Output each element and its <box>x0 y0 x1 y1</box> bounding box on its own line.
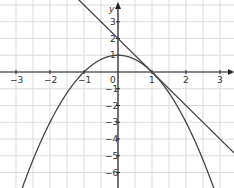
x-tick-label: −2 <box>44 75 57 85</box>
x-tick-label: 2 <box>183 75 189 85</box>
y-tick-label: −6 <box>105 168 119 178</box>
x-axis-arrow-icon <box>228 69 234 75</box>
y-tick-label: −1 <box>105 84 118 94</box>
tick-labels: y−3−2−1123321−1−2−3−4−5−60 <box>10 4 223 178</box>
y-tick-label: −5 <box>105 151 118 161</box>
y-tick-label: −4 <box>105 134 119 144</box>
curves <box>19 0 234 188</box>
x-tick-label: 1 <box>149 75 155 85</box>
y-tick-label: 3 <box>110 17 116 27</box>
x-tick-label: −3 <box>10 75 23 85</box>
x-tick-label: 3 <box>217 75 223 85</box>
y-axis-label: y <box>108 4 115 14</box>
y-tick-label: −3 <box>105 117 118 127</box>
y-tick-label: −2 <box>105 101 118 111</box>
coordinate-plot: y−3−2−1123321−1−2−3−4−5−60 <box>0 0 234 188</box>
plot-svg: y−3−2−1123321−1−2−3−4−5−60 <box>0 0 234 188</box>
origin-label: 0 <box>110 75 116 85</box>
